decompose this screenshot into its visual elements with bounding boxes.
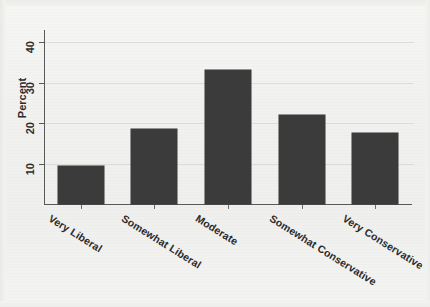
y-axis-line bbox=[44, 30, 45, 205]
bar-somewhat-conservative bbox=[279, 115, 325, 204]
y-tick-label-40: 40 bbox=[24, 41, 36, 69]
y-tick-label-10: 10 bbox=[24, 163, 36, 191]
bar-chart: Percent 10203040 Very LiberalSomewhat Li… bbox=[0, 0, 430, 307]
bar-very-conservative bbox=[352, 133, 398, 204]
x-tick-4 bbox=[375, 205, 376, 209]
x-tick-label-2: Moderate bbox=[194, 212, 241, 247]
x-tick-label-0: Very Liberal bbox=[46, 212, 104, 254]
x-tick-2 bbox=[228, 205, 229, 209]
gridline-40 bbox=[44, 42, 414, 43]
bar-somewhat-liberal bbox=[131, 129, 177, 204]
x-tick-3 bbox=[302, 205, 303, 209]
x-tick-1 bbox=[154, 205, 155, 209]
x-tick-0 bbox=[81, 205, 82, 209]
y-tick-label-20: 20 bbox=[24, 122, 36, 150]
bar-very-liberal bbox=[58, 166, 104, 204]
y-tick-label-30: 30 bbox=[24, 82, 36, 110]
x-tick-label-1: Somewhat Liberal bbox=[120, 212, 204, 271]
bar-moderate bbox=[205, 70, 251, 204]
